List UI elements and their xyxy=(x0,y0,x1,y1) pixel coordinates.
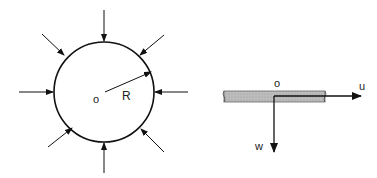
ring-figure: o R xyxy=(19,10,188,173)
center-label: o xyxy=(93,93,99,105)
radius-label: R xyxy=(122,89,131,103)
pressure-arrow-top-right xyxy=(140,35,164,55)
pressure-arrow-bottom-left xyxy=(48,128,72,147)
ring-circle xyxy=(54,42,154,142)
section-figure: o u w xyxy=(223,77,365,152)
pressure-arrows xyxy=(19,10,188,173)
diagram-canvas: o R o u w xyxy=(0,0,377,178)
u-axis-label: u xyxy=(359,80,365,92)
w-axis-label: w xyxy=(254,140,263,152)
pressure-arrow-top-left xyxy=(42,34,64,55)
origin-label: o xyxy=(274,77,280,89)
pressure-arrow-bottom-right xyxy=(141,129,164,152)
